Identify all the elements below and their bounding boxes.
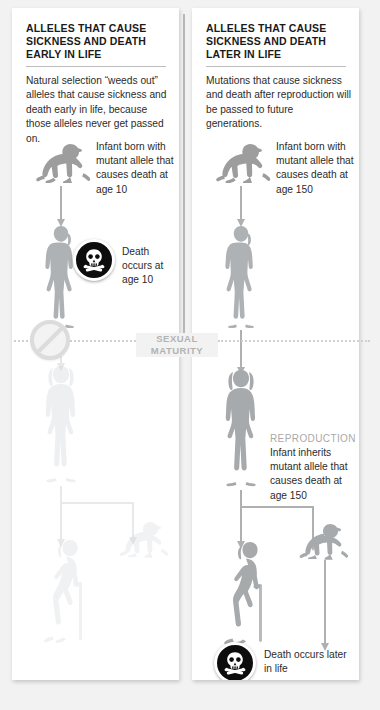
child-standing-figure-right (217, 224, 265, 330)
maturity-label: SEXUAL MATURITY (136, 333, 218, 357)
child-standing-figure (37, 224, 85, 330)
maturity-line-right (218, 340, 370, 342)
prohibition-icon (30, 320, 70, 360)
arrow-infant-to-child-right (240, 186, 242, 220)
arrow-child-to-adult (240, 330, 242, 368)
skull-and-crossbones-icon (222, 651, 248, 675)
right-death-note: Death occurs later in life (264, 648, 348, 676)
adult-woman-ghost-figure (32, 364, 90, 484)
right-panel-rule (206, 66, 346, 67)
offspring-figure (296, 522, 350, 560)
infant-crawling-figure (32, 141, 92, 183)
elderly-figure (216, 540, 276, 646)
reproduction-label: REPRODUCTION (270, 433, 356, 444)
left-panel-rule (26, 66, 166, 67)
left-panel-intro: Natural selection “weeds out” alleles th… (26, 74, 171, 146)
right-infant-note: Infant born with mutant allele that caus… (276, 140, 356, 197)
death-badge-right (214, 642, 256, 680)
left-death-note: Death occurs at age 10 (122, 245, 178, 288)
infant-crawling-figure-right (212, 141, 272, 183)
death-badge-left (73, 239, 115, 281)
elderly-ghost-figure (36, 538, 96, 644)
skull-and-crossbones-icon (81, 248, 107, 272)
panel-divider (183, 14, 185, 336)
arrow-adult-to-elder (240, 506, 242, 542)
left-panel-heading: ALLELES THAT CAUSE SICKNESS AND DEATH EA… (26, 22, 169, 62)
arrow-ghost-adult-to-elder (60, 502, 62, 540)
right-panel-heading: ALLELES THAT CAUSE SICKNESS AND DEATH LA… (206, 22, 349, 62)
adult-woman-figure (212, 368, 270, 488)
arrow-infant-to-child (60, 186, 62, 220)
arrow-offspring-future (324, 560, 326, 644)
right-panel-intro: Mutations that cause sickness and death … (206, 74, 351, 132)
maturity-label-line1: SEXUAL (136, 333, 218, 345)
maturity-label-line2: MATURITY (136, 345, 218, 357)
offspring-ghost-figure (116, 520, 170, 558)
left-infant-note: Infant born with mutant allele that caus… (96, 140, 174, 197)
infographic-canvas: ALLELES THAT CAUSE SICKNESS AND DEATH EA… (0, 0, 380, 710)
